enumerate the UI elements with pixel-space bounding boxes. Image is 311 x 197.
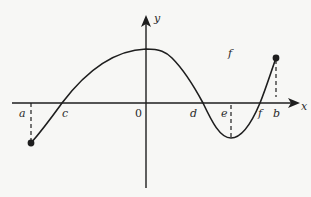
point-label-e: e — [221, 107, 228, 120]
point-label-a: a — [19, 107, 26, 120]
origin-label: 0 — [135, 107, 142, 120]
left-endpoint-dot — [28, 140, 35, 147]
y-axis-label: y — [153, 12, 161, 25]
function-graph-canvas: y x f a c 0 d e f b — [0, 0, 311, 197]
function-curve-f — [31, 49, 276, 143]
x-axis-label: x — [301, 100, 308, 113]
right-endpoint-dot — [273, 55, 280, 62]
graph-svg: y x f a c 0 d e f b — [0, 0, 311, 197]
point-label-c: c — [62, 107, 68, 120]
function-label: f — [227, 47, 234, 60]
point-label-f: f — [257, 107, 264, 120]
point-label-b: b — [273, 107, 280, 120]
point-label-d: d — [190, 107, 197, 120]
